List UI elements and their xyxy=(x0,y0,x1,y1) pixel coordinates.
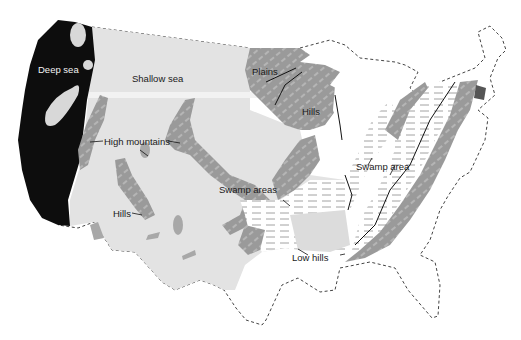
new-england-tip xyxy=(474,85,486,100)
label-deep-sea: Deep sea xyxy=(38,65,79,75)
paleogeography-map xyxy=(0,0,521,340)
island xyxy=(70,23,86,47)
label-shallow-sea: Shallow sea xyxy=(132,74,183,84)
label-swamp-areas: Swamp areas xyxy=(219,185,277,195)
label-hills-north: Hills xyxy=(302,107,320,117)
label-high-mountains: High mountains xyxy=(104,137,170,147)
island xyxy=(83,60,93,70)
ridge xyxy=(173,215,183,235)
label-swamp-area: Swamp area xyxy=(356,162,409,172)
low-area xyxy=(290,210,350,252)
label-hills-west: Hills xyxy=(113,209,131,219)
label-plains: Plains xyxy=(252,67,278,77)
label-low-hills: Low hills xyxy=(292,253,328,263)
